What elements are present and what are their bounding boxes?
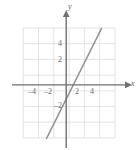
x-tick-label-neg2: –2 — [44, 88, 52, 96]
y-tick-label-pos4: 4 — [58, 40, 62, 48]
y-axis — [63, 10, 70, 148]
x-axis-label: x — [131, 80, 135, 88]
grid-lines — [23, 28, 115, 138]
x-tick-label-neg4: –4 — [28, 88, 36, 96]
coordinate-plane-svg — [0, 0, 138, 150]
x-tick-label-pos2: 2 — [75, 88, 79, 96]
graph-figure: y x –4 –2 2 4 4 2 –2 — [0, 0, 138, 150]
y-tick-label-neg2: –2 — [54, 102, 62, 110]
y-tick-label-pos2: 2 — [58, 56, 62, 64]
x-tick-label-pos4: 4 — [90, 88, 94, 96]
y-axis-label: y — [68, 3, 72, 11]
